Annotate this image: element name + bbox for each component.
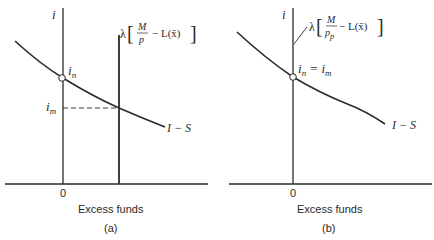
svg-text:p: p [138,34,144,45]
svg-text:− L(x̄): − L(x̄) [339,20,368,33]
svg-text:λ: λ [120,27,126,41]
origin-label-b: 0 [290,187,296,199]
supply-line-label-b: λ [ M pp − L(x̄) ] [309,14,384,41]
left-bracket: [ [316,15,323,37]
diagram-canvas: i in im I − S λ [ M p − L(x̄) ] 0 Excess… [0,0,434,240]
in-label: in [68,63,77,80]
supply-line-label-a: λ [ M p − L(x̄) ] [120,21,197,45]
caption-a: (a) [104,222,117,234]
y-axis-label-b: i [282,7,286,22]
svg-text:M: M [326,14,336,25]
label-leader-line [294,27,307,44]
in-equals-im-label: in=im [298,61,332,78]
im-label: im [46,99,57,116]
equilibrium-point-b [290,74,297,81]
equilibrium-point-a [59,75,66,82]
is-curve-b [237,32,385,124]
is-curve-a [15,41,165,127]
svg-text:pp: pp [324,27,334,41]
right-bracket: ] [377,15,384,37]
caption-b: (b) [322,222,335,234]
y-axis-label-a: i [52,7,56,22]
left-bracket: [ [127,22,134,44]
x-axis-label-b: Excess funds [297,203,363,215]
origin-label-a: 0 [60,187,66,199]
svg-text:λ: λ [309,20,315,34]
panel-a: i in im I − S λ [ M p − L(x̄) ] 0 Excess… [5,7,208,234]
x-axis-label-a: Excess funds [78,203,144,215]
svg-text:− L(x̄): − L(x̄) [152,27,181,40]
panel-b: i in=im I − S λ [ M pp − L(x̄) ] 0 Exces… [229,7,432,234]
is-curve-label-b: I − S [391,118,416,132]
svg-text:M: M [137,21,147,32]
right-bracket: ] [190,22,197,44]
is-curve-label-a: I − S [166,121,191,135]
